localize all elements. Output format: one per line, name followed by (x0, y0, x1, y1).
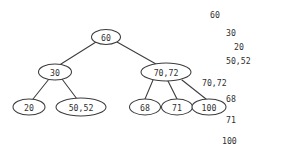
tree-node: 50,52 (56, 98, 106, 116)
listing-line: 50,52 (226, 56, 251, 66)
traversal-listing: 60302050,5270,726871100 (196, 0, 292, 162)
listing-line: 30 (226, 28, 236, 38)
node-label: 50,52 (69, 103, 94, 113)
tree-node: 70,72 (141, 63, 191, 81)
tree-node: 30 (39, 64, 72, 80)
node-label: 20 (24, 103, 34, 113)
node-label: 68 (140, 103, 150, 113)
tree-node: 60 (92, 30, 121, 45)
tree-nodes: 603070,722050,526871100 (13, 30, 226, 117)
node-label: 30 (50, 68, 60, 78)
node-label: 71 (172, 103, 182, 113)
listing-line: 68 (226, 94, 236, 104)
tree-edge (145, 80, 153, 99)
listing-line: 71 (226, 115, 236, 125)
tree-edge (61, 42, 96, 64)
tree-node: 71 (162, 99, 193, 115)
tree-edge (168, 81, 177, 99)
node-label: 70,72 (154, 68, 179, 78)
listing-line: 20 (234, 42, 244, 52)
listing-line: 70,72 (202, 78, 227, 88)
node-label: 60 (101, 33, 111, 43)
tree-node: 20 (13, 99, 45, 115)
listing-line: 100 (222, 136, 237, 146)
tree-edge (33, 79, 49, 99)
listing-line: 60 (210, 10, 220, 20)
tree-node: 68 (130, 99, 161, 115)
tree-edge (117, 42, 156, 64)
tree-edge (62, 79, 77, 99)
tree-diagram: 603070,722050,526871100 60302050,5270,72… (0, 0, 292, 162)
